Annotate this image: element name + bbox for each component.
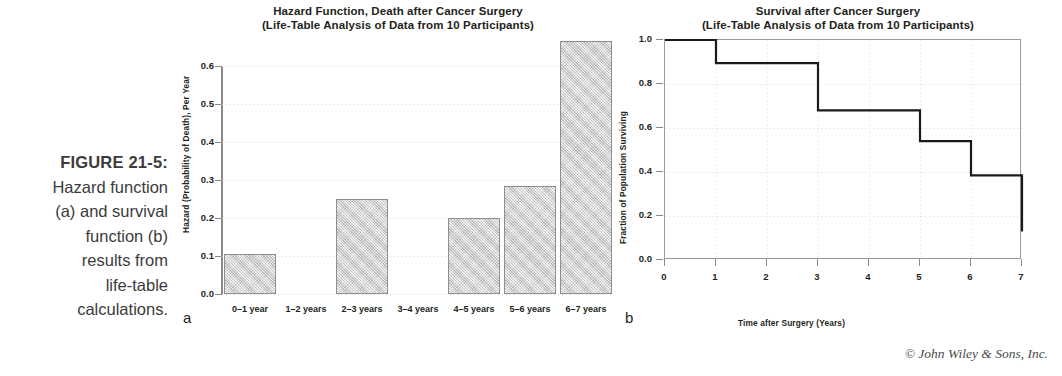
survival-ytick-mark-4 (656, 83, 663, 84)
hazard-xlabel-5: 5–6 years (502, 304, 558, 314)
survival-ytick-mark-5 (656, 39, 663, 40)
hazard-ytick-mark-3 (215, 180, 222, 181)
survival-ytick-mark-3 (656, 127, 663, 128)
hazard-ytick-mark-1 (215, 256, 222, 257)
survival-title-line2: (Life-Table Analysis of Data from 10 Par… (628, 18, 1048, 32)
survival-ytick-3: 0.6 (624, 121, 652, 132)
survival-xtick-mark-7 (1021, 259, 1022, 266)
survival-ytick-2: 0.4 (624, 165, 652, 176)
survival-step-chart: Survival after Cancer Surgery (Life-Tabl… (620, 0, 1062, 376)
survival-xtick-mark-4 (868, 259, 869, 266)
hazard-ytick-3: 0.3 (186, 174, 214, 185)
hazard-xlabel-6: 6–7 years (558, 304, 614, 314)
copyright-credit: © John Wiley & Sons, Inc. (905, 346, 1048, 362)
hazard-bar[interactable] (224, 254, 276, 294)
panel-letter-b: b (625, 309, 633, 326)
survival-xtick-mark-1 (715, 259, 716, 266)
hazard-xlabel-0: 0–1 year (222, 304, 278, 314)
hazard-xlabel-1: 1–2 years (278, 304, 334, 314)
survival-xtick-4: 4 (854, 271, 882, 282)
survival-ytick-5: 1.0 (624, 33, 652, 44)
survival-xtick-3: 3 (803, 271, 831, 282)
hazard-ytick-mark-2 (215, 218, 222, 219)
hazard-ytick-0: 0.0 (186, 288, 214, 299)
hazard-ytick-5: 0.5 (186, 98, 214, 109)
hazard-plot-area (222, 34, 614, 294)
hazard-ytick-1: 0.1 (186, 250, 214, 261)
survival-xtick-1: 1 (701, 271, 729, 282)
survival-ytick-mark-2 (656, 171, 663, 172)
survival-xtick-6: 6 (956, 271, 984, 282)
hazard-ytick-mark-4 (215, 142, 222, 143)
survival-xtick-mark-2 (766, 259, 767, 266)
survival-ytick-mark-1 (656, 215, 663, 216)
survival-xtick-7: 7 (1007, 271, 1035, 282)
survival-title-line1: Survival after Cancer Surgery (628, 4, 1048, 18)
hazard-ytick-mark-6 (215, 66, 222, 67)
hazard-bar[interactable] (504, 186, 556, 294)
survival-xtick-5: 5 (905, 271, 933, 282)
hazard-ytick-mark-5 (215, 104, 222, 105)
panel-letter-a: a (183, 309, 191, 326)
hazard-chart-title: Hazard Function, Death after Cancer Surg… (188, 4, 608, 32)
survival-xtick-mark-3 (817, 259, 818, 266)
survival-chart-title: Survival after Cancer Surgery (Life-Tabl… (628, 4, 1048, 32)
survival-plot-area (664, 39, 1021, 259)
survival-xtick-mark-6 (970, 259, 971, 266)
hazard-bar[interactable] (560, 41, 612, 294)
survival-ytick-mark-0 (656, 259, 663, 260)
survival-xtick-mark-0 (664, 259, 665, 266)
hazard-bar[interactable] (448, 218, 500, 294)
hazard-xlabel-2: 2–3 years (334, 304, 390, 314)
survival-ytick-4: 0.8 (624, 77, 652, 88)
hazard-title-line2: (Life-Table Analysis of Data from 10 Par… (188, 18, 608, 32)
survival-ytick-1: 0.2 (624, 209, 652, 220)
hazard-gridline-0 (222, 294, 614, 295)
hazard-bar-chart: Hazard Function, Death after Cancer Surg… (0, 0, 620, 376)
figure-21-5: FIGURE 21-5: Hazard function (a) and sur… (0, 0, 1062, 376)
hazard-xlabel-3: 3–4 years (390, 304, 446, 314)
hazard-bar[interactable] (336, 199, 388, 294)
hazard-ytick-6: 0.6 (186, 60, 214, 71)
hazard-title-line1: Hazard Function, Death after Cancer Surg… (188, 4, 608, 18)
survival-xtick-mark-5 (919, 259, 920, 266)
survival-xtick-2: 2 (752, 271, 780, 282)
survival-ytick-0: 0.0 (624, 253, 652, 264)
survival-curve (665, 40, 1022, 260)
survival-x-axis-label: Time after Surgery (Years) (738, 318, 845, 328)
survival-xtick-0: 0 (650, 271, 678, 282)
hazard-ytick-2: 0.2 (186, 212, 214, 223)
hazard-ytick-4: 0.4 (186, 136, 214, 147)
hazard-xlabel-4: 4–5 years (446, 304, 502, 314)
hazard-ytick-mark-0 (215, 294, 222, 295)
